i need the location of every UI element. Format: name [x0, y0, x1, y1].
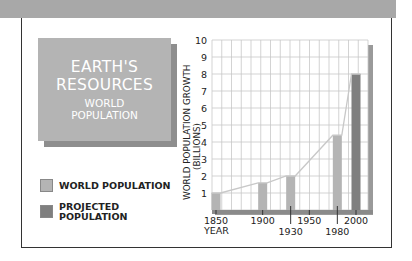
svg-text:1950: 1950	[297, 215, 321, 226]
svg-text:2000: 2000	[344, 215, 368, 226]
population-chart: 12345678910 1850190019502000YEAR19301980	[0, 0, 412, 261]
bar-1900	[258, 183, 267, 210]
svg-text:6: 6	[201, 103, 207, 114]
svg-text:4: 4	[201, 137, 207, 148]
svg-text:YEAR: YEAR	[203, 225, 229, 236]
svg-text:9: 9	[201, 52, 207, 63]
svg-text:5: 5	[201, 120, 207, 131]
svg-text:3: 3	[201, 154, 207, 165]
svg-text:8: 8	[201, 69, 207, 80]
svg-text:1900: 1900	[251, 215, 275, 226]
svg-text:1980: 1980	[325, 226, 349, 237]
y-axis-ticks: 12345678910	[195, 35, 207, 199]
svg-text:10: 10	[195, 35, 207, 46]
bar-2000	[352, 74, 361, 210]
x-axis	[212, 210, 373, 214]
bar-1980	[333, 135, 342, 210]
svg-text:7: 7	[201, 86, 207, 97]
bar-1850	[212, 193, 221, 210]
bar-1930	[286, 176, 295, 210]
svg-text:1930: 1930	[279, 226, 303, 237]
svg-text:2: 2	[201, 171, 207, 182]
svg-text:1: 1	[201, 188, 207, 199]
